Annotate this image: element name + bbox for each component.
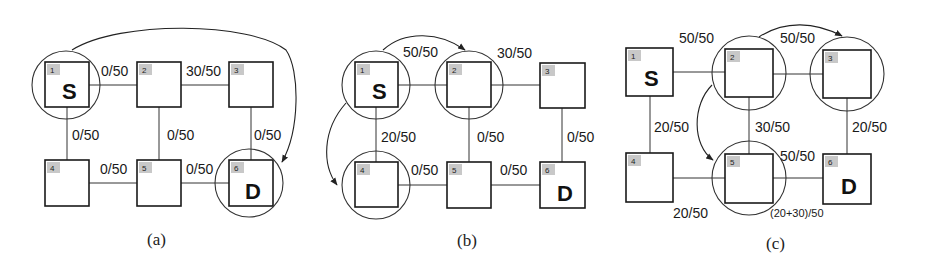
- edge-label-5-6-top: 50/50: [780, 148, 815, 164]
- node-5: 5: [725, 154, 773, 203]
- edge-label-2-5: 0/50: [477, 129, 504, 145]
- node-4: 4: [355, 162, 398, 207]
- node-number: 1: [631, 52, 636, 61]
- node-label: S: [372, 79, 387, 104]
- node-number: 1: [360, 66, 365, 75]
- node-6: 6 D: [823, 154, 871, 204]
- node-2: 2: [447, 62, 491, 107]
- node-6: 6 D: [229, 160, 273, 206]
- edge-label-5-6: 0/50: [186, 161, 213, 177]
- caption-b: (b): [457, 231, 477, 250]
- node-label: D: [841, 174, 857, 199]
- node-number: 2: [142, 66, 147, 75]
- edge-label-1-2: 50/50: [403, 44, 438, 60]
- node-1: 1 S: [626, 48, 673, 96]
- edge-label-4-5: 0/50: [411, 162, 438, 178]
- node-3: 3: [229, 62, 273, 107]
- node-number: 6: [234, 164, 239, 173]
- node-4: 4: [45, 160, 89, 206]
- edge-label-2-3: 50/50: [780, 30, 815, 46]
- node-label: D: [245, 179, 261, 204]
- panel-a: 1 S 2 3 4 5 6 D: [32, 28, 296, 249]
- edge-label-2-5: 30/50: [755, 119, 790, 135]
- edge-label-1-4: 20/50: [381, 129, 416, 145]
- edge-label-4-5: 20/50: [673, 205, 708, 221]
- node-number: 3: [234, 66, 239, 75]
- node-5: 5: [447, 162, 491, 208]
- edge-label-1-2: 50/50: [679, 30, 714, 46]
- node-1: 1 S: [45, 62, 89, 107]
- panel-c: 1 S 2 3 4 5 6 D: [626, 25, 887, 253]
- node-2: 2: [137, 62, 181, 107]
- flow-arrow-1-4: [327, 103, 346, 185]
- node-number: 5: [452, 166, 457, 175]
- node-number: 4: [631, 157, 636, 166]
- node-label: S: [644, 66, 659, 91]
- node-number: 6: [828, 158, 833, 167]
- node-3: 3: [540, 63, 585, 108]
- caption-a: (a): [147, 230, 166, 249]
- panel-b: 1 S 2 3 4 5 6 D: [327, 36, 595, 250]
- node-3: 3: [823, 50, 871, 98]
- node-number: 3: [545, 67, 550, 76]
- node-number: 1: [50, 66, 55, 75]
- edge-label-3-6: 0/50: [254, 127, 281, 143]
- edge-label-3-6: 0/50: [567, 129, 594, 145]
- node-label: S: [62, 79, 77, 104]
- edge-label-4-5: 0/50: [100, 161, 127, 177]
- edge-label-5-6: (20+30)/50: [770, 207, 824, 219]
- edge-label-1-2: 0/50: [101, 63, 128, 79]
- edge-label-3-6: 20/50: [852, 119, 887, 135]
- node-5: 5: [137, 160, 181, 206]
- node-number: 5: [142, 164, 147, 173]
- edge-label-1-4: 20/50: [654, 119, 689, 135]
- edge-label-2-3: 30/50: [497, 45, 532, 61]
- node-4: 4: [626, 153, 673, 202]
- flow-arrow-2-5: [697, 85, 713, 160]
- node-label: D: [557, 181, 573, 206]
- edge-label-1-4: 0/50: [72, 127, 99, 143]
- node-number: 4: [360, 166, 365, 175]
- node-number: 2: [452, 66, 457, 75]
- node-number: 4: [50, 164, 55, 173]
- node-6: 6 D: [540, 162, 585, 208]
- node-number: 5: [730, 158, 735, 167]
- network-flow-figure: 1 S 2 3 4 5 6 D: [0, 0, 927, 269]
- node-number: 6: [545, 166, 550, 175]
- node-2: 2: [725, 49, 773, 97]
- edge-label-2-5: 0/50: [167, 127, 194, 143]
- node-1: 1 S: [355, 62, 398, 107]
- caption-c: (c): [766, 234, 785, 253]
- edge-label-2-3: 30/50: [186, 63, 221, 79]
- node-number: 2: [730, 53, 735, 62]
- edge-label-5-6: 0/50: [500, 162, 527, 178]
- node-number: 3: [828, 54, 833, 63]
